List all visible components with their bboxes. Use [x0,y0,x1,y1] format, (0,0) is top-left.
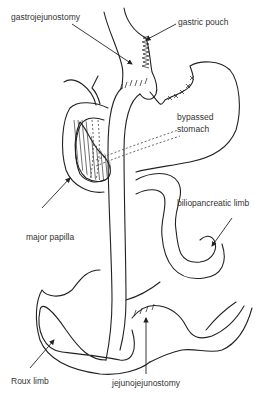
arrow-gastrojejunostomy [72,24,132,64]
label-bypassed-stomach-line2: stomach [177,124,209,135]
arrow-gastric-pouch [146,24,176,40]
small-bowel-coils [36,270,252,374]
label-gastrojejunostomy: gastrojejunostomy [11,12,80,23]
biliopancreatic-limb [126,174,224,301]
label-biliopancreatic-limb: biliopancreatic limb [177,198,249,209]
label-roux-limb: Roux limb [11,376,49,387]
label-bypassed-stomach-line1: bypassed [177,112,213,123]
arrow-biliopancreatic-limb [212,218,232,246]
roux-limb-ascending [106,78,147,360]
label-major-papilla: major papilla [26,232,74,243]
bypassed-stomach [96,62,239,172]
arrow-major-papilla [42,178,70,208]
label-jejunojejunostomy: jejunojejunostomy [112,378,180,389]
label-gastric-pouch: gastric pouch [178,17,229,28]
diagram-canvas: gastrojejunostomy gastric pouch bypassed… [0,0,270,396]
duodenum [63,76,108,192]
